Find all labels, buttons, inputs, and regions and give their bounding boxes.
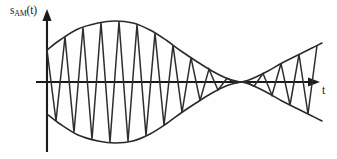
y-axis-label-suffix: (t) <box>27 4 37 16</box>
x-axis-label: t <box>322 84 325 96</box>
y-axis-label: sAM(t) <box>10 4 37 18</box>
y-axis-label-subscript: AM <box>14 9 26 18</box>
upper-envelope-curve <box>47 21 322 82</box>
x-axis-arrowhead <box>308 77 320 86</box>
y-axis-arrowhead <box>42 9 51 21</box>
waveform-canvas <box>0 0 337 159</box>
am-waveform-figure: sAM(t) t <box>0 0 337 159</box>
